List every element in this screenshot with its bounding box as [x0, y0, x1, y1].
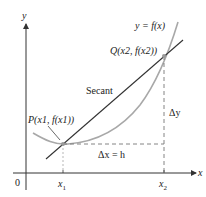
secant-line	[46, 40, 183, 159]
curve-label: y = f(x)	[134, 20, 166, 32]
secant-diagram: y x 0 x1 x2 y = f(x) Secant P(x1, f(x1))…	[0, 0, 206, 197]
delta-y-label: Δy	[169, 107, 180, 118]
x-axis-label: x	[197, 167, 203, 178]
x1-label: x1	[57, 178, 66, 192]
point-p-label: P(x1, f(x1))	[27, 114, 75, 126]
p-label-pointer	[48, 126, 60, 140]
curve-f	[33, 22, 178, 144]
point-p	[61, 142, 65, 146]
x2-label: x2	[158, 178, 167, 192]
delta-x-label: Δx = h	[98, 149, 125, 160]
secant-label: Secant	[86, 85, 113, 96]
origin-label: 0	[15, 177, 20, 188]
point-q-label: Q(x2, f(x2))	[110, 45, 158, 57]
y-axis-label: y	[21, 10, 27, 21]
point-q	[162, 54, 166, 58]
